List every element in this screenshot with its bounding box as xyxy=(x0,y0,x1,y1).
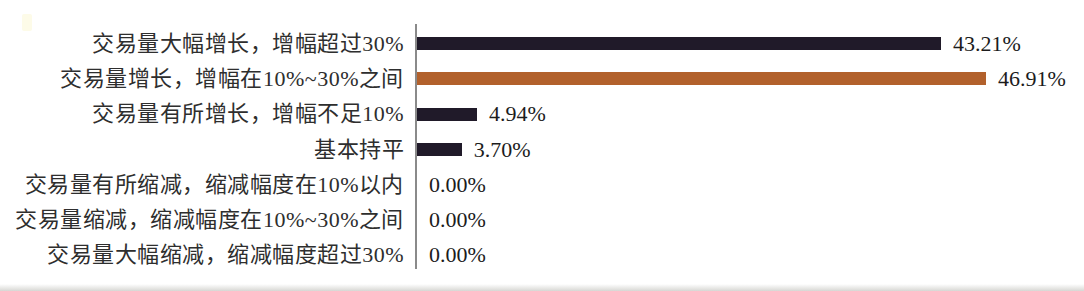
category-label: 交易量有所缩减，缩减幅度在10%以内 xyxy=(0,174,410,196)
bar-track: 43.21% xyxy=(417,26,1084,61)
bar xyxy=(417,37,941,50)
value-label: 46.91% xyxy=(998,68,1066,90)
bar-track: 0.00% xyxy=(417,238,1084,273)
bar xyxy=(417,143,462,156)
horizontal-bar-chart: 交易量大幅增长，增幅超过30% 43.21% 交易量增长，增幅在10%~30%之… xyxy=(0,0,1084,291)
bar-track: 4.94% xyxy=(417,97,1084,132)
bar-track: 0.00% xyxy=(417,167,1084,202)
category-label: 交易量增长，增幅在10%~30%之间 xyxy=(0,68,410,90)
category-label: 交易量大幅缩减，缩减幅度超过30% xyxy=(0,244,410,266)
value-label: 3.70% xyxy=(474,139,531,161)
chart-row: 交易量有所增长，增幅不足10% 4.94% xyxy=(0,97,1084,132)
chart-row: 交易量大幅增长，增幅超过30% 43.21% xyxy=(0,26,1084,61)
chart-row: 交易量大幅缩减，缩减幅度超过30% 0.00% xyxy=(0,238,1084,273)
category-label: 基本持平 xyxy=(0,139,410,161)
category-label: 交易量有所增长，增幅不足10% xyxy=(0,103,410,125)
category-label: 交易量缩减，缩减幅度在10%~30%之间 xyxy=(0,209,410,231)
value-label: 43.21% xyxy=(953,33,1021,55)
value-label: 0.00% xyxy=(429,244,486,266)
chart-row: 交易量增长，增幅在10%~30%之间 46.91% xyxy=(0,61,1084,96)
chart-row: 交易量有所缩减，缩减幅度在10%以内 0.00% xyxy=(0,167,1084,202)
bar-track: 3.70% xyxy=(417,132,1084,167)
bar-track: 46.91% xyxy=(417,61,1084,96)
bar xyxy=(417,108,477,121)
value-label: 0.00% xyxy=(429,209,486,231)
bar-track: 0.00% xyxy=(417,202,1084,237)
chart-row: 交易量缩减，缩减幅度在10%~30%之间 0.00% xyxy=(0,202,1084,237)
category-label: 交易量大幅增长，增幅超过30% xyxy=(0,33,410,55)
value-label: 4.94% xyxy=(489,103,546,125)
chart-rows: 交易量大幅增长，增幅超过30% 43.21% 交易量增长，增幅在10%~30%之… xyxy=(0,26,1084,273)
chart-row: 基本持平 3.70% xyxy=(0,132,1084,167)
value-label: 0.00% xyxy=(429,174,486,196)
bar xyxy=(417,72,986,85)
